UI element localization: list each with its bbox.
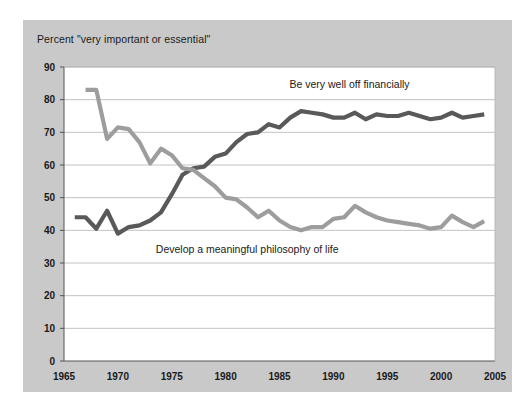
y-tick-label-20: 20 [44,290,56,301]
y-axis-tick-labels: 0102030405060708090 [44,62,64,367]
annotation-series-1: Be very well off financially [290,78,411,90]
y-tick-label-30: 30 [44,258,56,269]
chart-plot: 0102030405060708090 19651970197519801985… [23,20,512,392]
x-tick-label-1980: 1980 [215,371,238,382]
x-tick-label-1965: 1965 [53,371,76,382]
x-tick-label-1970: 1970 [107,371,130,382]
annotation-series-2: Develop a meaningful philosophy of life [156,243,339,255]
y-tick-label-60: 60 [44,160,56,171]
y-tick-label-50: 50 [44,192,56,203]
y-tick-label-40: 40 [44,225,56,236]
x-tick-label-1995: 1995 [376,371,399,382]
x-tick-label-1985: 1985 [268,371,291,382]
plot-area-background [64,67,495,361]
x-axis-tick-labels: 196519701975198019851990199520002005 [53,371,507,382]
x-tick-label-1990: 1990 [322,371,345,382]
y-tick-label-90: 90 [44,62,56,73]
x-tick-label-2000: 2000 [430,371,453,382]
y-tick-label-0: 0 [49,356,55,367]
y-tick-label-70: 70 [44,127,56,138]
y-tick-label-80: 80 [44,94,56,105]
figure-root: Percent "very important or essential" 01… [0,0,528,415]
chart-panel: Percent "very important or essential" 01… [23,20,512,392]
y-tick-label-10: 10 [44,323,56,334]
x-tick-label-2005: 2005 [484,371,507,382]
x-tick-label-1975: 1975 [161,371,184,382]
plot-background [64,67,495,361]
